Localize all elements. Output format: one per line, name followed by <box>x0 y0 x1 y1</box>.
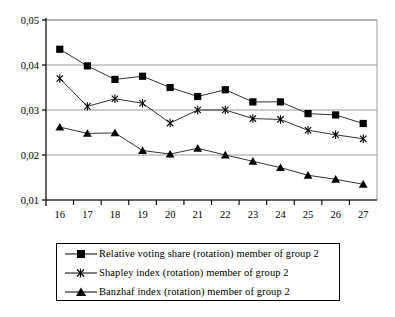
marker-asterisk-0 <box>57 74 63 82</box>
marker-square-1 <box>84 62 91 69</box>
marker-square-3 <box>139 73 146 80</box>
plot-area: 0,010,020,030,040,0516171819202122232425… <box>0 0 395 230</box>
marker-triangle-3 <box>138 146 147 154</box>
series-line-1 <box>60 79 363 139</box>
x-tick-label-1: 17 <box>82 209 93 220</box>
x-tick-label-3: 19 <box>137 209 148 220</box>
x-tick-label-0: 16 <box>55 209 66 220</box>
legend-label-relative-voting-share: Relative voting share (rotation) member … <box>99 248 319 259</box>
legend-item-relative-voting-share: Relative voting share (rotation) member … <box>57 244 339 263</box>
legend-item-shapley-index: Shapley index (rotation) member of group… <box>57 263 339 282</box>
x-tick-label-8: 24 <box>275 209 286 220</box>
x-tick-label-9: 25 <box>303 209 314 220</box>
plot-svg: 0,010,020,030,040,0516171819202122232425… <box>0 0 395 230</box>
marker-square-0 <box>56 46 63 53</box>
marker-square-11 <box>360 120 367 127</box>
legend-key-square <box>63 248 99 260</box>
marker-triangle-5 <box>193 144 202 152</box>
marker-square-6 <box>222 86 229 93</box>
marker-triangle-0 <box>55 123 64 131</box>
x-tick-label-11: 27 <box>358 209 369 220</box>
y-tick-label-4: 0,05 <box>21 15 39 26</box>
marker-square-7 <box>249 98 256 105</box>
marker-asterisk-1 <box>84 102 90 110</box>
marker-square-10 <box>332 111 339 118</box>
legend-item-banzhaf-index: Banzhaf index (rotation) member of group… <box>57 282 339 301</box>
marker-square-4 <box>167 84 174 91</box>
x-tick-label-6: 22 <box>220 209 231 220</box>
legend-label-banzhaf-index: Banzhaf index (rotation) member of group… <box>99 286 290 297</box>
chart-figure: 0,010,020,030,040,0516171819202122232425… <box>0 0 395 317</box>
y-tick-label-2: 0,03 <box>21 105 39 116</box>
marker-square-2 <box>111 76 118 83</box>
marker-square-5 <box>194 93 201 100</box>
chart-legend: Relative voting share (rotation) member … <box>56 243 340 301</box>
series-square <box>56 46 367 127</box>
x-tick-label-5: 21 <box>192 209 203 220</box>
x-tick-label-10: 26 <box>330 209 341 220</box>
marker-asterisk-4 <box>167 119 173 127</box>
x-tick-label-7: 23 <box>248 209 259 220</box>
legend-key-asterisk <box>63 267 99 279</box>
legend-key-triangle <box>63 286 99 298</box>
marker-square-9 <box>304 110 311 117</box>
y-tick-label-3: 0,04 <box>21 60 40 71</box>
y-tick-label-0: 0,01 <box>21 195 39 206</box>
legend-label-shapley-index: Shapley index (rotation) member of group… <box>99 267 289 278</box>
y-tick-label-1: 0,02 <box>21 150 39 161</box>
marker-square-8 <box>277 98 284 105</box>
x-tick-label-4: 20 <box>165 209 176 220</box>
x-tick-label-2: 18 <box>110 209 121 220</box>
series-line-0 <box>60 49 363 123</box>
series-line-2 <box>60 127 363 184</box>
